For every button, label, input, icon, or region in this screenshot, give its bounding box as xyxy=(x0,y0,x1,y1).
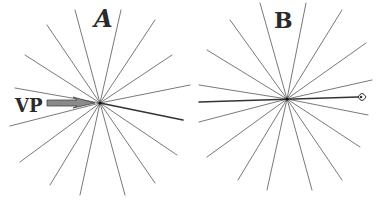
vp-label: VP xyxy=(14,95,43,116)
ray-line xyxy=(287,10,342,99)
panel-b-label: B xyxy=(274,7,293,33)
ray-line xyxy=(100,103,125,195)
eye-icon xyxy=(358,94,366,101)
ray-line xyxy=(50,103,100,185)
ray-line xyxy=(80,103,100,195)
ray-line xyxy=(199,99,287,122)
panel-a-label: A xyxy=(92,4,113,33)
vanishing-point-dot xyxy=(285,97,288,100)
ray-line xyxy=(287,99,342,180)
vanishing-point-diagram: A B VP xyxy=(0,0,377,203)
ray-line xyxy=(199,85,287,99)
ray-line xyxy=(207,99,287,157)
ray-line xyxy=(100,103,155,183)
ray-line xyxy=(47,25,100,103)
ray-line xyxy=(238,99,287,180)
vanishing-point-dot xyxy=(98,101,101,104)
ray-line xyxy=(267,99,287,190)
